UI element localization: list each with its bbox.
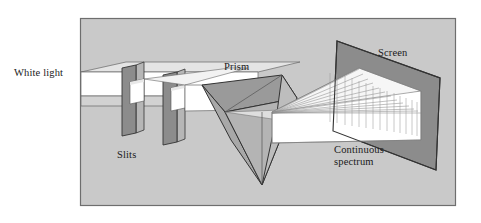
slit-plate-1 [122,62,144,136]
label-slits: Slits [117,149,136,160]
label-continuous-spectrum-line2: spectrum [334,156,374,167]
label-prism: Prism [224,61,249,72]
label-white-light: White light [14,67,63,78]
label-continuous-spectrum-line1: Continuous [334,144,384,155]
dispersion-diagram: White light Slits Prism Screen Continuou… [0,0,481,223]
label-screen: Screen [378,47,408,58]
figure-root: White light Slits Prism Screen Continuou… [0,0,481,223]
